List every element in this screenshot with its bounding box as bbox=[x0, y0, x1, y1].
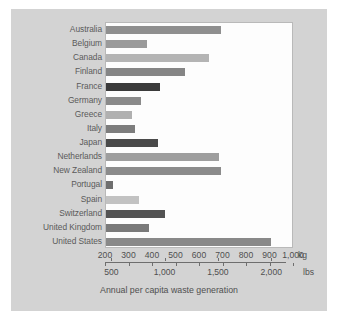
bar-row bbox=[106, 193, 292, 207]
category-label: Greece bbox=[11, 107, 102, 121]
chart-caption: Annual per capita waste generation bbox=[11, 285, 327, 295]
axis-kg-tick-mark bbox=[223, 263, 224, 266]
bar-row bbox=[106, 164, 292, 178]
bar bbox=[106, 83, 160, 91]
axis-lbs-tick-label: 1,000 bbox=[154, 267, 176, 277]
category-label: Spain bbox=[11, 192, 102, 206]
axis-lbs-tick-mark bbox=[271, 258, 272, 261]
axis-kg-tick-mark bbox=[152, 263, 153, 266]
bar bbox=[106, 238, 271, 246]
bar bbox=[106, 210, 165, 218]
axis-kg-tick-label: 500 bbox=[168, 250, 182, 260]
category-label: United Kingdom bbox=[11, 220, 102, 234]
axis-kg-rule bbox=[105, 262, 286, 263]
axis-kg-tick-label: 900 bbox=[262, 250, 276, 260]
category-label: Japan bbox=[11, 135, 102, 149]
bar bbox=[106, 153, 219, 161]
axis-kg-tick-label: 300 bbox=[121, 250, 135, 260]
bar bbox=[106, 196, 139, 204]
category-axis-labels: AustraliaBelgiumCanadaFinlandFranceGerma… bbox=[11, 22, 102, 248]
bar bbox=[106, 224, 149, 232]
axis-lbs-labels: lbs 5001,0001,5002,000 bbox=[105, 267, 315, 283]
axis-kg-tick-mark bbox=[176, 263, 177, 266]
category-label: Germany bbox=[11, 93, 102, 107]
plot-wrapper bbox=[105, 22, 293, 248]
axis-kg-tick-label: 800 bbox=[239, 250, 253, 260]
category-label: Finland bbox=[11, 64, 102, 78]
bar bbox=[106, 40, 147, 48]
category-label: France bbox=[11, 79, 102, 93]
axis-lbs-unit: lbs bbox=[303, 267, 314, 277]
bar-row bbox=[106, 23, 292, 37]
axis-lbs-tick-label: 500 bbox=[104, 267, 118, 277]
axis-lbs-tick-mark bbox=[111, 258, 112, 261]
category-label: New Zealand bbox=[11, 163, 102, 177]
category-label: Canada bbox=[11, 50, 102, 64]
bar-row bbox=[106, 108, 292, 122]
bar-row bbox=[106, 150, 292, 164]
bar-row bbox=[106, 235, 292, 249]
bar-row bbox=[106, 178, 292, 192]
chart-figure: AustraliaBelgiumCanadaFinlandFranceGerma… bbox=[11, 9, 327, 311]
category-label: Italy bbox=[11, 121, 102, 135]
category-label: Switzerland bbox=[11, 206, 102, 220]
bar bbox=[106, 111, 132, 119]
axis-kg-tick-mark bbox=[129, 263, 130, 266]
axis-kg-tick-mark bbox=[293, 263, 294, 266]
bar bbox=[106, 54, 209, 62]
category-label: United States bbox=[11, 234, 102, 248]
axis-kg-tick-label: 200 bbox=[98, 250, 112, 260]
bar bbox=[106, 97, 141, 105]
category-label: Australia bbox=[11, 22, 102, 36]
bar-row bbox=[106, 122, 292, 136]
bar-row bbox=[106, 136, 292, 150]
axis-lbs-tick-label: 1,500 bbox=[207, 267, 229, 277]
category-label: Portugal bbox=[11, 177, 102, 191]
axis-kg-tick-mark bbox=[105, 263, 106, 266]
bar-row bbox=[106, 221, 292, 235]
axis-lbs-tick-mark bbox=[218, 258, 219, 261]
bar bbox=[106, 68, 185, 76]
bar bbox=[106, 181, 113, 189]
bar-row bbox=[106, 37, 292, 51]
plot-area bbox=[105, 22, 293, 248]
axis-kg-tick-label: 600 bbox=[192, 250, 206, 260]
bar bbox=[106, 125, 135, 133]
bar-row bbox=[106, 80, 292, 94]
axis-lbs-tick-mark bbox=[165, 258, 166, 261]
bar bbox=[106, 139, 158, 147]
axis-kg-tick-label: 1,000 bbox=[282, 250, 304, 260]
axis-lbs-tick-label: 2,000 bbox=[260, 267, 282, 277]
bar-row bbox=[106, 51, 292, 65]
axis-kg-tick-mark bbox=[270, 263, 271, 266]
axis-kg-labels: kg 2003004005006007008009001,000 bbox=[105, 250, 305, 266]
bar bbox=[106, 167, 221, 175]
bar-row bbox=[106, 207, 292, 221]
bar-row bbox=[106, 94, 292, 108]
axis-kg-tick-mark bbox=[199, 263, 200, 266]
axis-kg-tick-label: 400 bbox=[145, 250, 159, 260]
category-label: Netherlands bbox=[11, 149, 102, 163]
bar bbox=[106, 26, 221, 34]
bar-row bbox=[106, 65, 292, 79]
axis-kg-tick-mark bbox=[246, 263, 247, 266]
category-label: Belgium bbox=[11, 36, 102, 50]
